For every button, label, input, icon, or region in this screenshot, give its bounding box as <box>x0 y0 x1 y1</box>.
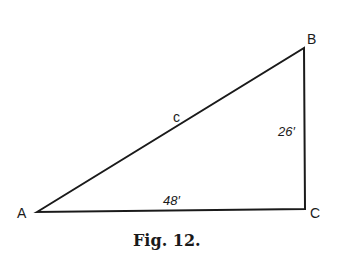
base-side-label: 48′ <box>163 193 180 208</box>
figure-caption: Fig. 12. <box>133 231 201 250</box>
triangle-figure: A B C c 26′ 48′ Fig. 12. <box>0 0 339 269</box>
right-triangle <box>37 48 305 212</box>
vertex-b-label: B <box>307 31 316 47</box>
vertex-a-label: A <box>17 205 27 221</box>
hypotenuse-label: c <box>173 109 180 125</box>
vertical-side-label: 26′ <box>277 124 295 139</box>
vertex-c-label: C <box>310 205 320 221</box>
